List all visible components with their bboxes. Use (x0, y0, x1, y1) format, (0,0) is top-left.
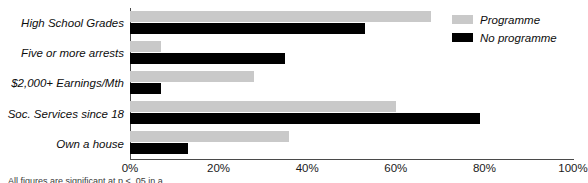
legend-label-programme: Programme (480, 14, 540, 26)
x-tick-1: 20% (207, 162, 230, 174)
figure-caption-clipped: All figures are significant at p < .05 i… (8, 177, 568, 183)
bar-programme-4 (130, 131, 289, 142)
bar-noprogramme-2 (130, 83, 161, 94)
chart-legend: Programme No programme (452, 12, 582, 48)
x-tick-4: 80% (473, 162, 496, 174)
x-axis-line (130, 159, 574, 160)
bar-noprogramme-4 (130, 143, 188, 154)
legend-swatch-icon (452, 33, 473, 42)
category-label-text: $2,000+ Earnings/Mth (11, 77, 124, 89)
x-tick-0: 0% (122, 162, 139, 174)
bar-noprogramme-3 (130, 113, 480, 124)
legend-item-programme: Programme (452, 12, 582, 27)
category-label-2: $2,000+ Earnings/Mth (0, 68, 124, 98)
bar-group-2 (130, 68, 573, 98)
x-tick-2: 40% (296, 162, 319, 174)
bar-programme-2 (130, 71, 254, 82)
category-label-4: Own a house (0, 129, 124, 159)
bar-programme-0 (130, 11, 431, 22)
category-axis-labels: High School Grades Five or more arrests … (0, 8, 126, 159)
category-label-1: Five or more arrests (0, 38, 124, 68)
bar-noprogramme-1 (130, 53, 285, 64)
category-label-text: High School Grades (21, 17, 124, 29)
figure-caption-text: All figures are significant at p < .05 i… (8, 177, 568, 183)
x-tick-5: 100% (558, 162, 587, 174)
category-label-0: High School Grades (0, 8, 124, 38)
bar-programme-3 (130, 101, 396, 112)
category-label-3: Soc. Services since 18 (0, 99, 124, 129)
x-tick-3: 60% (384, 162, 407, 174)
category-label-text: Soc. Services since 18 (8, 108, 124, 120)
category-label-text: Five or more arrests (21, 47, 124, 59)
bar-noprogramme-0 (130, 23, 365, 34)
legend-swatch-icon (452, 15, 473, 24)
bar-group-4 (130, 129, 573, 159)
legend-label-noprogramme: No programme (480, 32, 557, 44)
category-label-text: Own a house (56, 138, 124, 150)
bar-programme-1 (130, 41, 161, 52)
bar-group-3 (130, 99, 573, 129)
legend-item-noprogramme: No programme (452, 30, 582, 45)
